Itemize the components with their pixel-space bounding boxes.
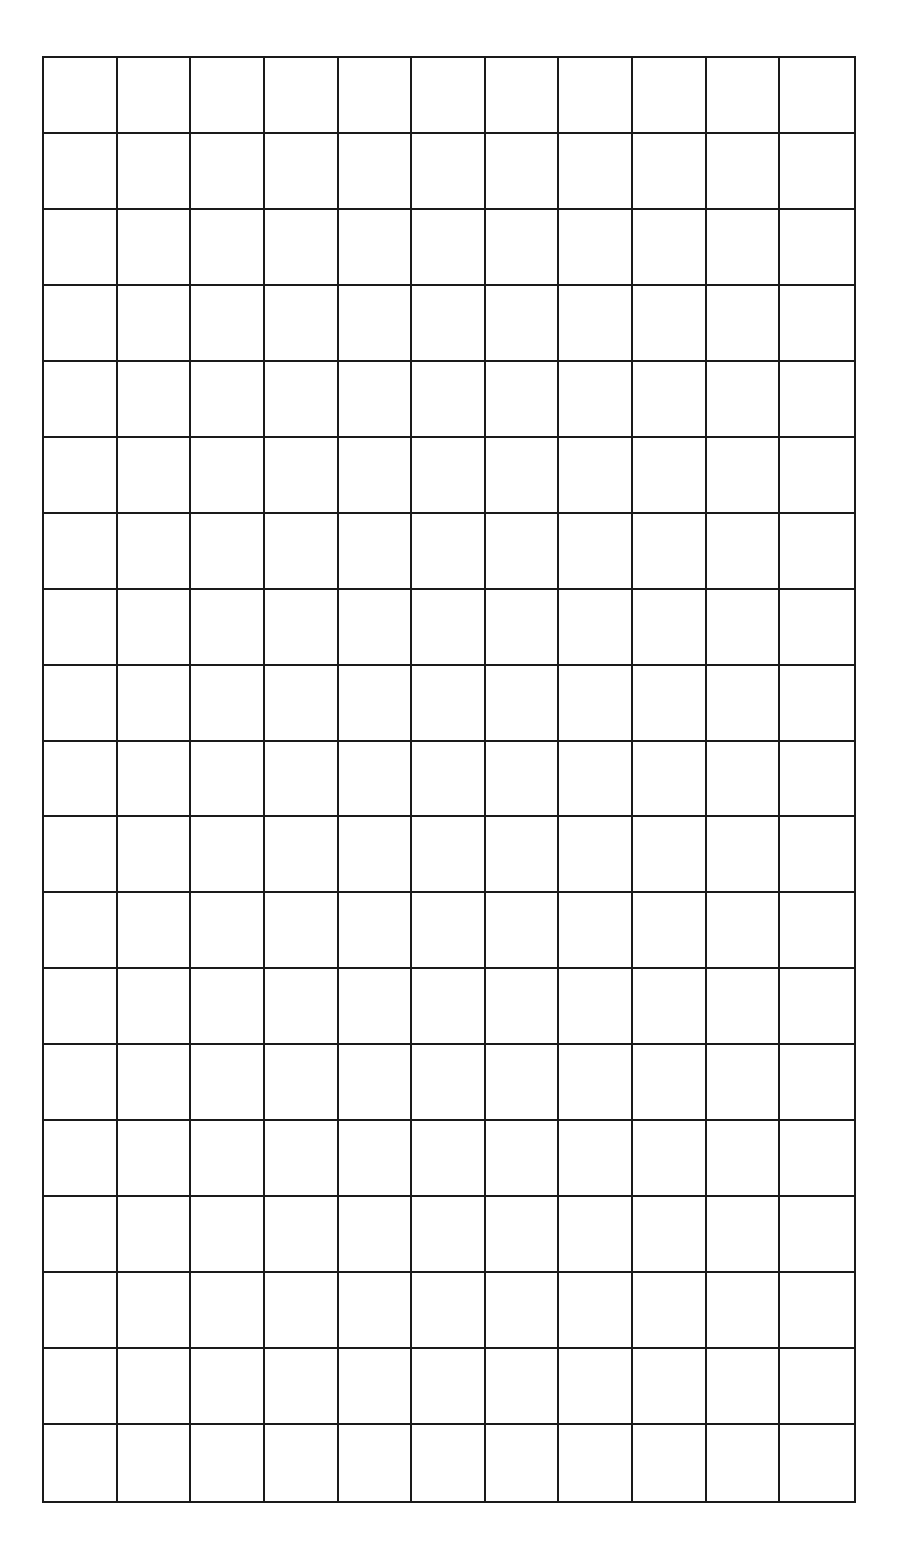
grid-cell (780, 514, 854, 590)
grid-cell (265, 1425, 339, 1501)
grid-cell (486, 134, 560, 210)
grid-cell (707, 210, 781, 286)
grid-cell (707, 286, 781, 362)
grid-cell (633, 742, 707, 818)
grid-cell (633, 134, 707, 210)
grid-cell (412, 1273, 486, 1349)
grid-cell (707, 1121, 781, 1197)
grid-cell (486, 969, 560, 1045)
grid-cell (633, 286, 707, 362)
grid-cell (265, 286, 339, 362)
grid-cell (486, 1273, 560, 1349)
grid-cell (780, 1121, 854, 1197)
grid-cell (780, 1045, 854, 1121)
grid-cell (633, 1273, 707, 1349)
grid-cell (191, 514, 265, 590)
grid-cell (118, 1425, 192, 1501)
grid-cell (339, 286, 413, 362)
grid-cell (559, 1273, 633, 1349)
grid-cell (265, 1273, 339, 1349)
grid-cell (412, 893, 486, 969)
grid-cell (559, 817, 633, 893)
grid-cell (339, 134, 413, 210)
grid-cell (339, 1121, 413, 1197)
grid-cell (486, 590, 560, 666)
grid-cell (44, 286, 118, 362)
grid-cell (191, 362, 265, 438)
grid-cell (339, 893, 413, 969)
grid-cell (559, 742, 633, 818)
grid-cell (412, 969, 486, 1045)
grid-cell (44, 590, 118, 666)
grid-cell (118, 666, 192, 742)
grid-cell (559, 438, 633, 514)
grid-cell (707, 1349, 781, 1425)
grid-cell (633, 210, 707, 286)
grid-cell (559, 1121, 633, 1197)
grid-cell (339, 742, 413, 818)
grid-cell (707, 817, 781, 893)
grid-cell (265, 969, 339, 1045)
grid-cell (780, 893, 854, 969)
grid-cell (191, 817, 265, 893)
grid-cell (118, 1045, 192, 1121)
grid-cell (118, 210, 192, 286)
grid-cell (780, 1425, 854, 1501)
grid-cell (486, 210, 560, 286)
grid-cell (707, 969, 781, 1045)
grid-cell (412, 1121, 486, 1197)
grid-cell (191, 590, 265, 666)
grid-cell (559, 58, 633, 134)
grid-cell (559, 590, 633, 666)
grid-cell (559, 1197, 633, 1273)
grid-cell (633, 1425, 707, 1501)
grid-cell (191, 893, 265, 969)
grid-cell (265, 893, 339, 969)
grid-cell (339, 438, 413, 514)
grid-cell (633, 438, 707, 514)
grid-cell (191, 1425, 265, 1501)
grid-cell (559, 362, 633, 438)
grid-cell (412, 1197, 486, 1273)
grid-cell (633, 893, 707, 969)
grid-cell (412, 210, 486, 286)
grid-cell (780, 438, 854, 514)
grid-cell (559, 1425, 633, 1501)
grid-cell (633, 1349, 707, 1425)
grid-cell (633, 817, 707, 893)
page (0, 0, 905, 1564)
grid-cell (559, 134, 633, 210)
grid-cell (486, 1349, 560, 1425)
grid-cell (339, 666, 413, 742)
grid-cell (486, 286, 560, 362)
grid-cell (412, 1045, 486, 1121)
grid-cell (118, 1349, 192, 1425)
grid-cell (265, 666, 339, 742)
grid-cell (265, 1349, 339, 1425)
grid-cell (633, 58, 707, 134)
grid-cell (118, 1273, 192, 1349)
grid-cell (339, 1349, 413, 1425)
grid-cell (44, 969, 118, 1045)
grid-cell (633, 969, 707, 1045)
grid-cell (191, 742, 265, 818)
grid-cell (265, 1045, 339, 1121)
grid-cell (44, 1349, 118, 1425)
grid-cell (780, 666, 854, 742)
grid-cell (633, 1045, 707, 1121)
grid-cell (559, 666, 633, 742)
grid-cell (118, 438, 192, 514)
grid-cell (412, 742, 486, 818)
grid-cell (44, 514, 118, 590)
grid-cell (559, 893, 633, 969)
grid-cell (486, 58, 560, 134)
grid-cell (191, 134, 265, 210)
grid-cell (44, 742, 118, 818)
grid-cell (339, 362, 413, 438)
grid-cell (780, 58, 854, 134)
grid-cell (559, 210, 633, 286)
grid-cell (780, 590, 854, 666)
grid-cell (339, 817, 413, 893)
grid-cell (44, 1197, 118, 1273)
grid-cell (780, 286, 854, 362)
